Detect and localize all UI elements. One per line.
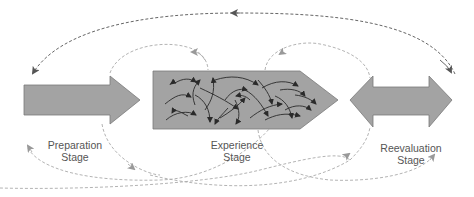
reevaluation-stage-double-arrow bbox=[350, 76, 452, 127]
preparation-stage-label-line2: Stage bbox=[34, 151, 116, 163]
preparation-stage-arrow bbox=[24, 76, 140, 124]
reevaluation-stage-label-line2: Stage bbox=[368, 154, 454, 166]
preparation-stage-label: Preparation Stage bbox=[34, 139, 116, 163]
reevaluation-stage-label-line1: Reevaluation bbox=[368, 142, 454, 154]
experience-stage-label: Experience Stage bbox=[197, 139, 277, 163]
stage-diagram bbox=[0, 0, 474, 197]
feedback-arc-connector bbox=[33, 13, 455, 74]
reevaluation-stage-label: Reevaluation Stage bbox=[368, 142, 454, 166]
experience-stage-label-line2: Stage bbox=[197, 151, 277, 163]
preparation-stage-label-line1: Preparation bbox=[34, 139, 116, 151]
experience-stage-label-line1: Experience bbox=[197, 139, 277, 151]
